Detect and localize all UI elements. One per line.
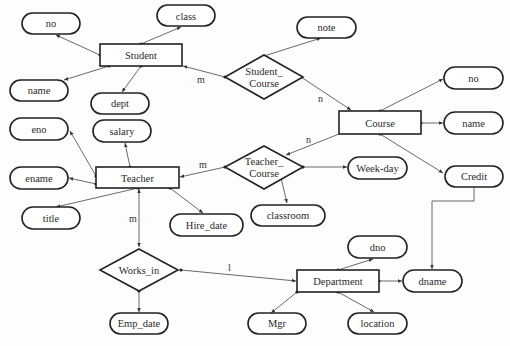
entity-department[interactable]: Department <box>297 270 379 292</box>
attribute-course-credit-label: Credit <box>461 171 487 182</box>
attribute-dept-dno[interactable]: dno <box>348 236 407 258</box>
cardinality-student-sc: m <box>197 74 205 85</box>
relationship-student-course-label-2: Course <box>249 78 279 89</box>
attribute-tc-classroom-label: classroom <box>267 210 310 221</box>
attribute-works-emp-date-label: Emp_date <box>118 318 161 329</box>
entity-teacher-label: Teacher <box>121 173 155 184</box>
attribute-course-no[interactable]: no <box>444 67 503 89</box>
attribute-dept-dname[interactable]: dname <box>403 270 462 292</box>
attribute-student-name[interactable]: name <box>10 80 68 101</box>
edge-dept-location <box>338 292 374 312</box>
attribute-tc-weekday[interactable]: Week-day <box>348 157 407 179</box>
attribute-teacher-ename[interactable]: ename <box>10 167 68 189</box>
edge-student-class <box>141 27 181 44</box>
entity-student-label: Student <box>125 50 157 61</box>
edge-teacher-salary <box>125 143 130 167</box>
cardinality-course-sc: n <box>318 93 323 104</box>
cardinality-teacher-works: m <box>129 213 137 224</box>
attribute-sc-note-label: note <box>317 22 335 33</box>
attribute-teacher-title-label: title <box>43 213 60 224</box>
attribute-teacher-salary[interactable]: salary <box>93 120 151 142</box>
attribute-dept-location-label: location <box>361 318 396 329</box>
attribute-dept-location[interactable]: location <box>348 313 407 334</box>
attribute-teacher-title[interactable]: title <box>22 207 80 229</box>
attribute-tc-weekday-label: Week-day <box>356 163 399 174</box>
relationship-teacher-course-label-2: Course <box>249 168 279 179</box>
relationship-works-in[interactable]: Works_in <box>100 249 178 291</box>
edge-sc-note <box>264 38 321 56</box>
relationship-works-in-label: Works_in <box>119 265 160 276</box>
edge-teacher-title <box>56 188 138 207</box>
attribute-dept-mgr[interactable]: Mgr <box>248 313 306 334</box>
entity-department-label: Department <box>313 276 363 287</box>
edge-student-dept <box>122 66 141 92</box>
entity-course-label: Course <box>365 118 395 129</box>
attribute-student-no[interactable]: no <box>22 13 80 34</box>
edge-student-no <box>56 35 100 55</box>
edge-teacher-eno <box>70 131 96 176</box>
attribute-student-dept[interactable]: dept <box>91 93 149 114</box>
edge-dept-mgr <box>271 292 297 313</box>
attribute-teacher-eno-label: eno <box>31 124 46 135</box>
entity-course[interactable]: Course <box>339 111 421 134</box>
entity-teacher[interactable]: Teacher <box>96 167 179 188</box>
attribute-teacher-hire-date[interactable]: Hire_date <box>170 214 243 236</box>
er-diagram: Student Course Teacher Department Studen… <box>0 0 510 346</box>
attribute-course-name[interactable]: name <box>444 112 503 134</box>
attribute-tc-classroom[interactable]: classroom <box>251 205 325 226</box>
relationship-student-course[interactable]: Student_ Course <box>225 55 303 99</box>
attribute-sc-note[interactable]: note <box>297 17 356 38</box>
attribute-dept-dname-label: dname <box>419 276 447 287</box>
attribute-works-emp-date[interactable]: Emp_date <box>110 313 168 334</box>
relationship-teacher-course-label-1: Teacher_ <box>245 156 284 167</box>
edge-sc-course <box>301 77 351 110</box>
attribute-teacher-ename-label: ename <box>25 173 53 184</box>
attribute-course-name-label: name <box>462 118 485 129</box>
attribute-teacher-eno[interactable]: eno <box>10 118 68 140</box>
edge-works-dept <box>181 270 296 281</box>
edge-course-no <box>380 79 443 111</box>
edge-teacher-ename <box>69 178 96 184</box>
attribute-course-credit[interactable]: Credit <box>445 166 503 187</box>
cardinality-dept-works: l <box>228 262 231 273</box>
attribute-course-no-label: no <box>468 73 479 84</box>
edge-student-name <box>64 66 109 80</box>
edge-dept-dno <box>338 259 373 270</box>
attribute-teacher-salary-label: salary <box>109 126 135 137</box>
attribute-student-name-label: name <box>28 85 51 96</box>
edge-teacher-hire-date <box>170 188 203 213</box>
relationship-student-course-label-1: Student_ <box>245 66 283 77</box>
edge-tc-classroom <box>281 178 287 203</box>
er-diagram-canvas: Student Course Teacher Department Studen… <box>0 0 510 346</box>
relationship-teacher-course[interactable]: Teacher_ Course <box>225 146 303 189</box>
attribute-student-class-label: class <box>176 11 196 22</box>
edge-tc-course <box>286 134 339 155</box>
attribute-student-class[interactable]: class <box>157 5 215 26</box>
entity-student[interactable]: Student <box>100 44 182 66</box>
edge-credit-dname <box>432 187 474 269</box>
attribute-teacher-hire-date-label: Hire_date <box>186 220 228 231</box>
cardinality-course-tc: n <box>306 134 311 145</box>
cardinality-teacher-tc: m <box>199 159 207 170</box>
attribute-student-dept-label: dept <box>111 98 129 109</box>
attribute-dept-mgr-label: Mgr <box>268 318 287 329</box>
attribute-dept-dno-label: dno <box>370 242 386 253</box>
attribute-student-no-label: no <box>46 18 57 29</box>
